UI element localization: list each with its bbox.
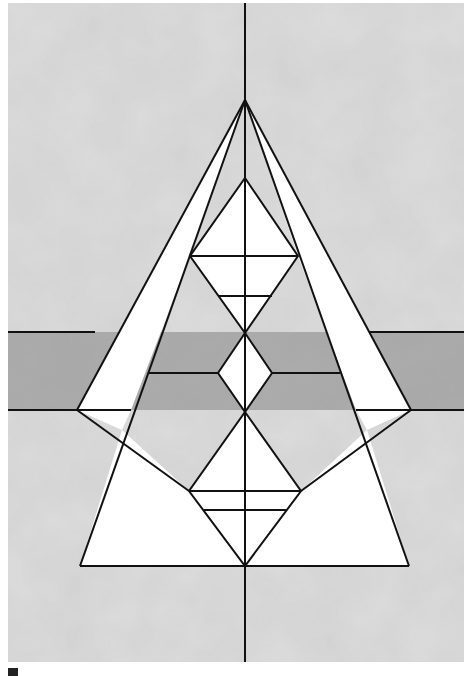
artwork-canvas xyxy=(0,0,464,676)
corner-mark xyxy=(8,668,18,676)
